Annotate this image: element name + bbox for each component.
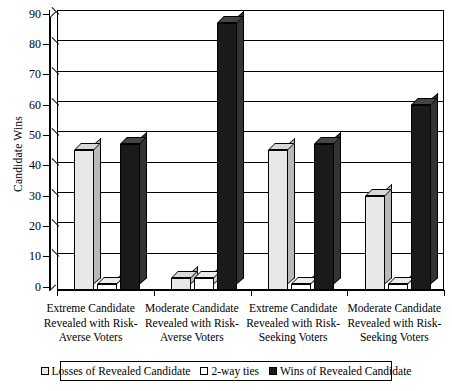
- legend-item[interactable]: Wins of Revealed Candidate: [269, 365, 411, 377]
- y-tick-label: 70: [29, 68, 57, 80]
- bar-front-face: [365, 196, 385, 290]
- legend-label: Wins of Revealed Candidate: [280, 365, 411, 377]
- y-tick-label: 10: [29, 250, 57, 262]
- y-tick-label: 80: [29, 38, 57, 50]
- bar-side-face: [334, 132, 341, 284]
- y-tick-label: 90: [29, 8, 57, 20]
- x-axis-line: [57, 290, 444, 291]
- gridline: [57, 131, 444, 132]
- x-axis-label-line: Revealed with Risk-: [245, 316, 342, 331]
- x-axis-labels: Extreme CandidateRevealed with Risk-Aver…: [40, 301, 445, 345]
- gridline: [57, 40, 444, 41]
- bar-side-face: [140, 132, 147, 284]
- x-axis-label-line: Moderate Candidate: [143, 301, 240, 316]
- bar-1-1: [74, 150, 94, 290]
- gridline: [57, 162, 444, 163]
- x-axis-label: Moderate CandidateRevealed with Risk-Ave…: [141, 301, 242, 345]
- bar-1-3: [120, 144, 140, 290]
- x-tick-mark: [154, 290, 155, 296]
- bar-chart: Candidate Wins 0102030405060708090 Extre…: [0, 0, 452, 391]
- gridline: [57, 10, 444, 11]
- bar-front-face: [314, 144, 334, 290]
- plot-area: 0102030405060708090: [57, 10, 444, 290]
- bar-front-face: [268, 150, 288, 290]
- bar-side-face: [94, 138, 101, 284]
- legend-swatch-icon: [200, 367, 208, 375]
- x-axis-label-line: Moderate Candidate: [346, 301, 443, 316]
- x-axis-label: Extreme CandidateRevealed with Risk-Aver…: [40, 301, 141, 345]
- x-axis-label: Moderate CandidateRevealed with Risk-See…: [344, 301, 445, 345]
- bar-front-face: [194, 278, 214, 290]
- x-axis-label-line: Revealed with Risk-: [42, 316, 139, 331]
- legend-item[interactable]: 2-way ties: [200, 365, 259, 377]
- y-tick-label: 60: [29, 99, 57, 111]
- bar-2-2: [194, 278, 214, 290]
- x-axis-label-line: Seeking Voters: [245, 330, 342, 345]
- bar-4-3: [411, 105, 431, 290]
- x-tick-mark: [251, 290, 252, 296]
- y-axis-title: Candidate Wins: [12, 94, 24, 214]
- bar-front-face: [411, 105, 431, 290]
- y-tick-label: 40: [29, 159, 57, 171]
- x-tick-mark: [347, 290, 348, 296]
- x-axis-label-line: Extreme Candidate: [42, 301, 139, 316]
- bar-front-face: [171, 278, 191, 290]
- bar-3-1: [268, 150, 288, 290]
- gridline: [57, 101, 444, 102]
- bar-front-face: [74, 150, 94, 290]
- bar-front-face: [120, 144, 140, 290]
- x-axis-label-line: Revealed with Risk-: [346, 316, 443, 331]
- x-axis-label-line: Revealed with Risk-: [143, 316, 240, 331]
- bar-2-3: [217, 23, 237, 290]
- x-axis-label: Extreme CandidateRevealed with Risk-Seek…: [243, 301, 344, 345]
- bar-4-1: [365, 196, 385, 290]
- legend-item[interactable]: Losses of Revealed Candidate: [41, 365, 191, 377]
- y-axis-line: [49, 10, 50, 291]
- y-tick-label: 50: [29, 129, 57, 141]
- legend-label: Losses of Revealed Candidate: [52, 365, 191, 377]
- bar-side-face: [385, 184, 392, 284]
- y-tick-label: 0: [35, 281, 57, 293]
- x-tick-mark: [444, 290, 445, 296]
- x-tick-mark: [57, 290, 58, 296]
- bar-side-face: [288, 138, 295, 284]
- bar-front-face: [217, 23, 237, 290]
- chart-legend: Losses of Revealed Candidate2-way tiesWi…: [60, 361, 392, 381]
- legend-label: 2-way ties: [211, 365, 259, 377]
- bar-side-face: [431, 93, 438, 284]
- x-axis-label-line: Seeking Voters: [346, 330, 443, 345]
- bar-3-3: [314, 144, 334, 290]
- bar-side-face: [237, 11, 244, 284]
- legend-swatch-icon: [269, 367, 277, 375]
- y-tick-label: 30: [29, 190, 57, 202]
- x-axis-label-line: Extreme Candidate: [245, 301, 342, 316]
- x-axis-label-line: Averse Voters: [42, 330, 139, 345]
- gridline: [57, 71, 444, 72]
- x-axis-label-line: Averse Voters: [143, 330, 240, 345]
- legend-swatch-icon: [41, 367, 49, 375]
- bar-2-1: [171, 278, 191, 290]
- y-tick-label: 20: [29, 220, 57, 232]
